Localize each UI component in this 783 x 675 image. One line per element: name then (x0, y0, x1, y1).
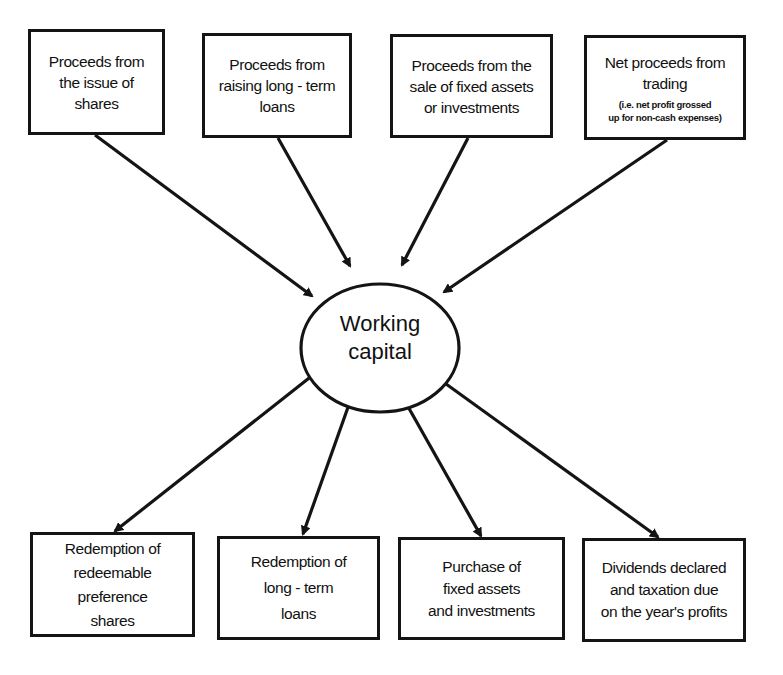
outflow-label: Purchase of fixed assets and investments (428, 556, 535, 622)
inflow-label: Proceeds from the sale of fixed assets o… (410, 55, 534, 118)
outflow-box-long-term-loans: Redemption of long - term loans (217, 536, 380, 640)
outflow-box-fixed-assets-purchase: Purchase of fixed assets and investments (398, 537, 565, 640)
arrow-inflow-fixed-assets-sale (402, 138, 468, 265)
outflow-box-preference-shares: Redemption of redeemable preference shar… (30, 532, 195, 637)
inflow-label: Proceeds from raising long - term loans (219, 54, 335, 117)
arrow-inflow-shares (95, 135, 312, 296)
outflow-box-dividends-taxation: Dividends declared and taxation due on t… (582, 538, 746, 642)
inflow-box-long-term-loans: Proceeds from raising long - term loans (202, 33, 352, 138)
arrow-outflow-loans (303, 396, 352, 534)
arrow-inflow-trading (444, 140, 667, 292)
inflow-label: Net proceeds from trading (605, 52, 726, 94)
inflow-note: (i.e. net profit grossed up for non-cash… (608, 98, 721, 124)
outflow-label: Redemption of long - term loans (251, 549, 347, 627)
inflow-box-net-trading-proceeds: Net proceeds from trading (i.e. net prof… (584, 35, 746, 140)
outflow-label: Dividends declared and taxation due on t… (601, 557, 727, 623)
arrow-outflow-preference-shares (115, 371, 318, 531)
inflow-box-sale-of-fixed-assets: Proceeds from the sale of fixed assets o… (390, 34, 553, 138)
inflow-label: Proceeds from the issue of shares (49, 51, 145, 114)
arrow-outflow-fixed-assets-purchase (402, 396, 481, 536)
working-capital-label: Working capital (300, 310, 460, 366)
arrow-inflow-loans (278, 138, 350, 266)
outflow-label: Redemption of redeemable preference shar… (65, 537, 161, 633)
inflow-box-share-issue: Proceeds from the issue of shares (28, 29, 165, 135)
